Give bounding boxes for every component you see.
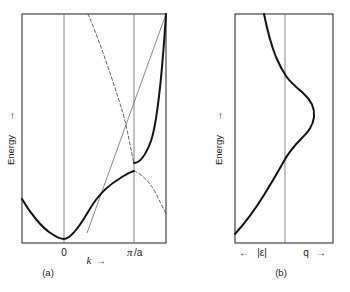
physics-band-structure-figure: Energy → 0 π /a k → (a) Energy [0, 0, 350, 292]
panel-b-x-label-right-arrow: → [316, 247, 326, 258]
panel-b-y-axis-label-group: Energy → [213, 111, 224, 165]
panel-a-caption: (a) [42, 267, 54, 278]
panel-b-y-axis-label: Energy [213, 135, 224, 165]
panel-b-caption: (b) [275, 267, 287, 278]
figure-canvas: Energy → 0 π /a k → (a) Energy [0, 0, 350, 292]
figure-background [0, 0, 350, 292]
panel-b-x-label-right: q [303, 247, 309, 258]
panel-a-x-axis-arrow: → [96, 255, 106, 266]
panel-b-y-axis-arrow: → [213, 111, 224, 121]
panel-a-y-axis-arrow: → [5, 111, 16, 121]
panel-a-xtick-zone-boundary-rest: /a [134, 247, 143, 258]
panel-a-y-axis-label: Energy [5, 135, 16, 165]
panel-a-xtick-origin: 0 [61, 247, 67, 258]
panel-b-x-label-left: |ε| [257, 247, 267, 258]
panel-b-x-label-left-arrow: ← [239, 247, 249, 258]
panel-a-y-axis-label-group: Energy → [5, 111, 16, 165]
panel-a-xtick-zone-boundary-symbol: π [127, 246, 133, 258]
